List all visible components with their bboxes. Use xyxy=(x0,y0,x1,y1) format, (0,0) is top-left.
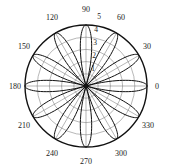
angular-label-90: 90 xyxy=(82,5,90,14)
angular-label-270: 270 xyxy=(80,157,92,166)
radial-label-5: 5 xyxy=(97,12,101,21)
angular-label-30: 30 xyxy=(143,42,151,51)
angular-label-210: 210 xyxy=(18,121,30,130)
angular-label-300: 300 xyxy=(115,149,127,158)
angular-label-150: 150 xyxy=(18,42,30,51)
radial-label-3: 3 xyxy=(93,38,97,47)
polar-plot-figure: 0306090120150180210240270300330 54321 xyxy=(0,0,173,168)
radial-label-1: 1 xyxy=(91,64,95,73)
angular-label-240: 240 xyxy=(46,149,58,158)
radial-label-2: 2 xyxy=(92,51,96,60)
radial-label-4: 4 xyxy=(94,25,98,34)
angular-label-60: 60 xyxy=(117,13,125,22)
angular-label-0: 0 xyxy=(155,82,159,91)
angular-label-180: 180 xyxy=(9,82,21,91)
polar-plot-canvas: 0306090120150180210240270300330 54321 xyxy=(0,0,173,168)
angular-label-120: 120 xyxy=(46,13,58,22)
angular-label-330: 330 xyxy=(142,121,154,130)
